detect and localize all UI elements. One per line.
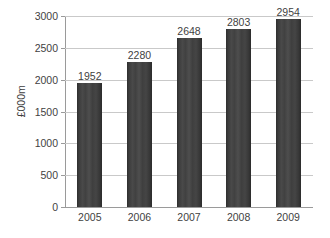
bar[interactable]: [177, 38, 202, 207]
y-tick-mark: [61, 207, 65, 208]
bar-chart: 050010001500200025003000 195222802648280…: [0, 0, 330, 238]
bar-value-label: 2280: [114, 50, 164, 61]
x-tick-label: 2007: [164, 212, 214, 223]
bar[interactable]: [77, 83, 102, 207]
bar-value-label: 2648: [164, 26, 214, 37]
y-axis-title: £000m: [16, 71, 27, 131]
gridline: [65, 207, 313, 208]
y-tick-label: 500: [14, 170, 58, 181]
bar[interactable]: [226, 29, 251, 207]
bar[interactable]: [276, 19, 301, 207]
y-tick-label: 2500: [14, 43, 58, 54]
x-tick-label: 2006: [114, 212, 164, 223]
bar-value-label: 1952: [65, 71, 115, 82]
x-tick-label: 2005: [65, 212, 115, 223]
y-tick-label: 3000: [14, 11, 58, 22]
bar-value-label: 2803: [214, 17, 264, 28]
plot-area: [65, 16, 313, 207]
y-tick-label: 1000: [14, 138, 58, 149]
bar[interactable]: [127, 62, 152, 207]
x-tick-label: 2008: [214, 212, 264, 223]
x-tick-label: 2009: [263, 212, 313, 223]
bar-value-label: 2954: [263, 7, 313, 18]
y-tick-label: 0: [14, 202, 58, 213]
